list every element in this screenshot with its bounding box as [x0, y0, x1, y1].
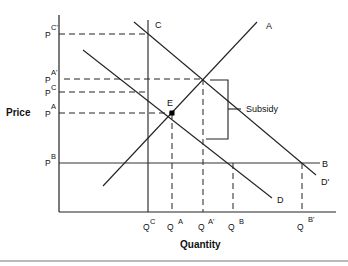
svg-text:Q: Q: [297, 222, 304, 232]
svg-text:Q: Q: [167, 222, 174, 232]
equilibrium-point: [170, 111, 175, 116]
subsidy-bracket: [206, 80, 228, 139]
line-a: [103, 22, 257, 186]
svg-text:Q: Q: [198, 222, 205, 232]
svg-text:B': B': [308, 215, 315, 224]
svg-text:A': A': [51, 68, 58, 77]
demand-d-prime: [134, 22, 316, 175]
svg-text:C: C: [51, 83, 57, 92]
svg-text:A: A: [51, 102, 56, 111]
quantity-tick-labels: Q C Q A Q A' Q B Q B': [143, 215, 315, 232]
svg-text:C: C: [150, 217, 156, 226]
svg-text:B: B: [51, 152, 56, 161]
svg-text:A: A: [178, 217, 183, 226]
subsidy-diagram: C A B D' D E Subsidy Price Quantity P C'…: [0, 0, 348, 266]
label-d-prime: D': [321, 177, 329, 187]
x-axis-title: Quantity: [180, 239, 221, 250]
svg-text:Q: Q: [228, 222, 235, 232]
label-c: C: [155, 20, 162, 30]
svg-text:Q: Q: [143, 222, 150, 232]
svg-text:C': C': [51, 23, 58, 32]
svg-text:A': A': [208, 217, 215, 226]
price-guides: [59, 34, 203, 113]
label-subsidy: Subsidy: [246, 104, 279, 114]
y-axis-title: Price: [6, 107, 31, 118]
label-a: A: [266, 21, 272, 31]
price-tick-labels: P C' P A' P C P A P B: [45, 23, 58, 168]
label-e: E: [167, 98, 173, 108]
quantity-guides: [172, 79, 302, 212]
label-d: D: [277, 195, 284, 205]
label-b: B: [322, 159, 328, 169]
demand-d: [83, 50, 272, 198]
svg-text:B: B: [239, 217, 244, 226]
